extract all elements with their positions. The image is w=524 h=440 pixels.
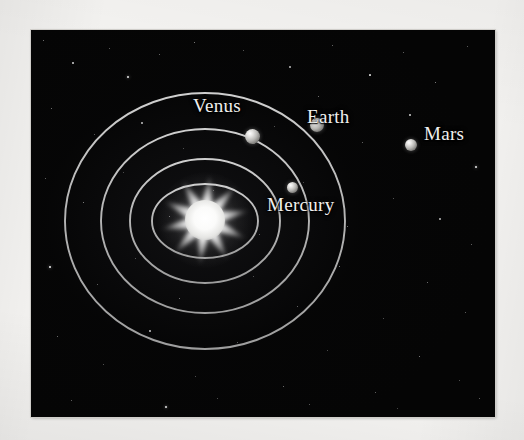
planet-label-mercury: Mercury — [267, 194, 335, 216]
planet-mercury[interactable] — [287, 182, 298, 193]
orbit-ellipse-mars — [65, 93, 345, 349]
orbit-ellipse-mercury — [152, 184, 258, 258]
solar-system-figure: Venus Earth Mars Mercury — [0, 0, 524, 440]
orbit-ellipse-group — [65, 93, 345, 349]
orbit-ellipse-earth — [101, 129, 309, 313]
planet-venus[interactable] — [245, 129, 260, 144]
orbit-paths — [31, 30, 495, 417]
planet-label-venus: Venus — [193, 95, 241, 117]
planet-label-mars: Mars — [424, 123, 464, 145]
sky-plate: Venus Earth Mars Mercury — [31, 30, 495, 417]
planet-mars[interactable] — [405, 139, 417, 151]
planet-label-earth: Earth — [307, 106, 350, 128]
